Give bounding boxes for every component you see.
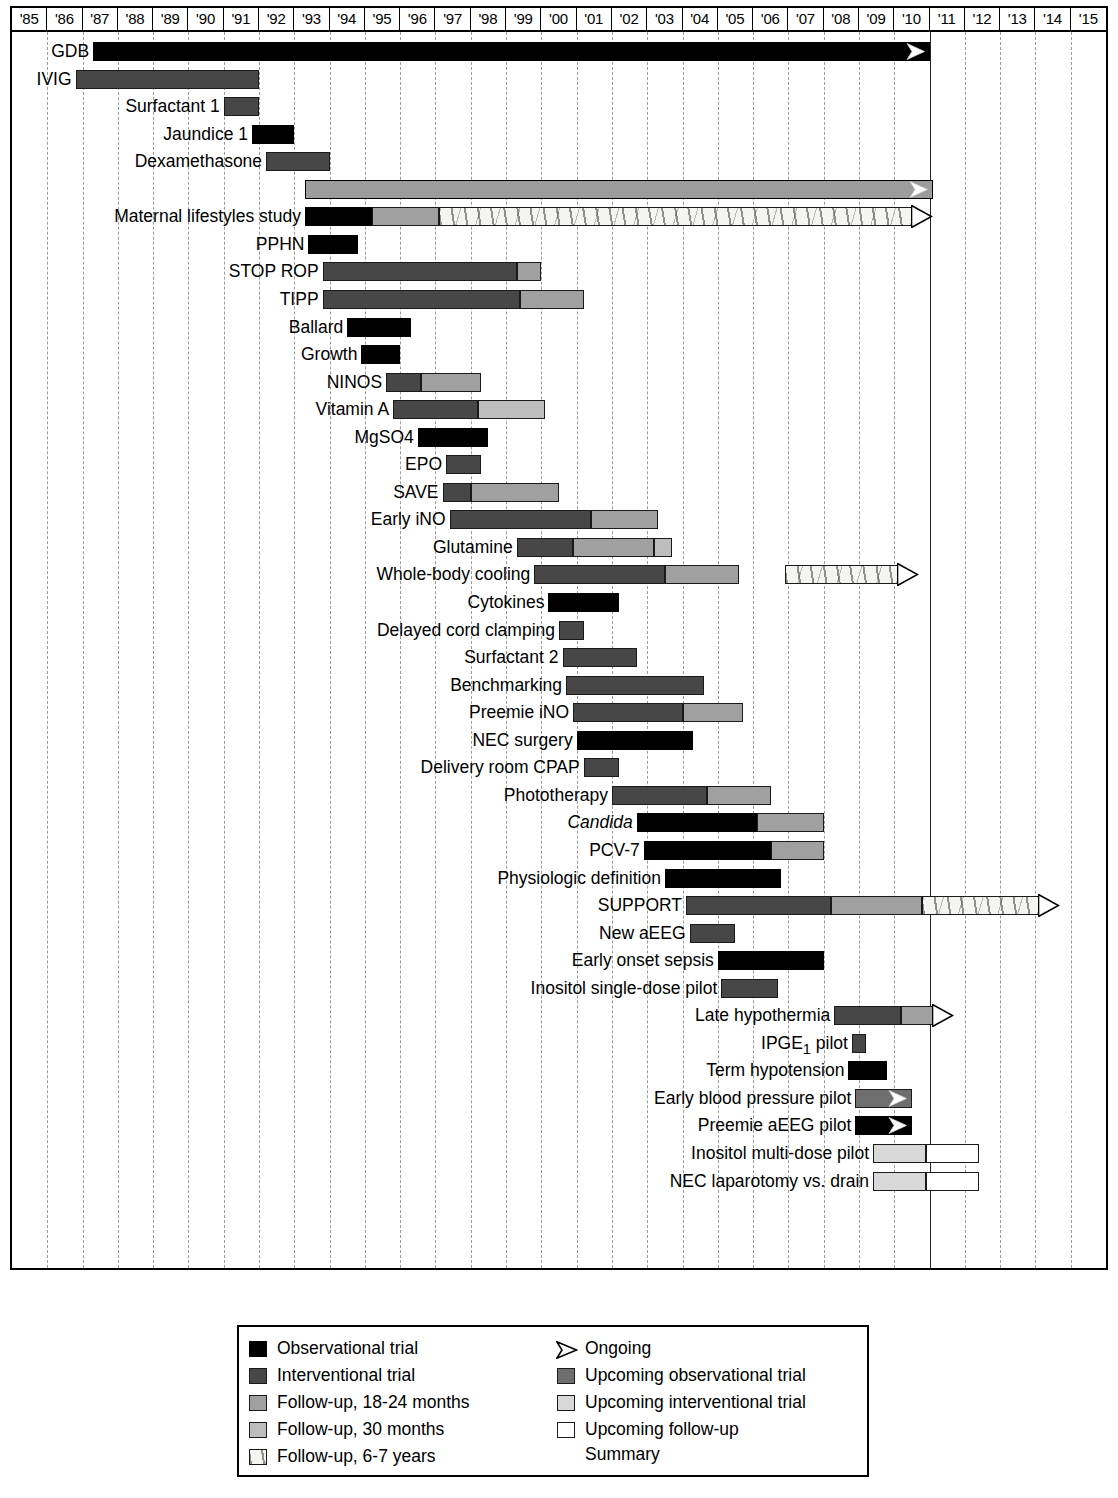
axis-year-98: '98 (471, 8, 506, 30)
row-label: Whole-body cooling (377, 561, 535, 587)
row-label: Ballard (289, 314, 347, 340)
bar-segment-int (450, 510, 591, 529)
gantt-row: PPHN (12, 231, 1106, 257)
gantt-row: Dexamethasone (12, 148, 1106, 174)
row-label: GDB (51, 38, 93, 64)
bar-segment-fu18 (831, 896, 923, 915)
bar-segment-fu18 (707, 786, 771, 805)
row-label: Surfactant 2 (464, 644, 562, 670)
row-label: Delayed cord clamping (377, 617, 559, 643)
bar-segment-obs (308, 235, 357, 254)
legend-label: Ongoing (585, 1335, 651, 1362)
row-label: TIPP (280, 286, 323, 312)
bar-segment-fu67 (785, 565, 898, 584)
row-label: IVIG (37, 66, 76, 92)
bar-segment-int (517, 538, 573, 557)
gantt-row: Vitamin A (12, 396, 1106, 422)
gantt-row: NEC laparotomy vs. drain (12, 1168, 1106, 1194)
bar-segment-fu18 (372, 207, 439, 226)
bar-segment-sum (305, 180, 933, 199)
bar-segment-fu18 (683, 703, 743, 722)
bar-segment-int (76, 70, 260, 89)
row-label: NEC laparotomy vs. drain (670, 1168, 873, 1194)
gantt-row: IPGE1 pilot (12, 1030, 1106, 1056)
bar-segment-fu18 (665, 565, 739, 584)
bar-segment-fu18 (573, 538, 654, 557)
row-label: NEC surgery (472, 727, 576, 753)
row-label: MgSO4 (355, 424, 418, 450)
bar-segment-int (446, 455, 481, 474)
axis-year-06: '06 (753, 8, 788, 30)
gantt-row: Ballard (12, 314, 1106, 340)
axis-year-09: '09 (859, 8, 894, 30)
gantt-row: NINOS (12, 369, 1106, 395)
row-label: Surfactant 1 (125, 93, 223, 119)
row-label: PCV-7 (589, 837, 644, 863)
legend-swatch-fu30 (249, 1422, 267, 1438)
axis-year-95: '95 (365, 8, 400, 30)
legend-column-left: Observational trialInterventional trialF… (249, 1335, 549, 1470)
legend-item-int: Interventional trial (249, 1362, 549, 1389)
legend-item-upobs: Upcoming observational trial (557, 1362, 863, 1389)
legend-label: Upcoming follow-up (585, 1416, 739, 1443)
bar-segment-obs (577, 731, 693, 750)
legend-label: Follow-up, 18-24 months (277, 1389, 470, 1416)
gantt-row: STOP ROP (12, 258, 1106, 284)
row-label: NINOS (327, 369, 386, 395)
gantt-row: Delivery room CPAP (12, 754, 1106, 780)
axis-year-00: '00 (541, 8, 576, 30)
axis-year-86: '86 (47, 8, 82, 30)
row-label: Early blood pressure pilot (654, 1085, 855, 1111)
bar-segment-obs (637, 813, 757, 832)
bar-segment-obs (548, 593, 619, 612)
row-label: Early iNO (371, 506, 450, 532)
row-label: Benchmarking (450, 672, 566, 698)
bar-segment-obs (361, 345, 400, 364)
bar-segment-fu67 (439, 207, 912, 226)
axis-year-89: '89 (153, 8, 188, 30)
bar-segment-int (323, 290, 521, 309)
bar-segment-int (393, 400, 478, 419)
bar-segment-int (563, 648, 637, 667)
bar-segment-upfu (926, 1144, 979, 1163)
ongoing-arrow-icon (1038, 894, 1060, 917)
legend-column-right: OngoingUpcoming observational trialUpcom… (557, 1335, 863, 1467)
gantt-row: Term hypotension (12, 1057, 1106, 1083)
axis-year-01: '01 (577, 8, 612, 30)
gantt-row: Cytokines (12, 589, 1106, 615)
row-label: Preemie aEEG pilot (698, 1112, 856, 1138)
axis-year-97: '97 (435, 8, 470, 30)
row-label: Late hypothermia (695, 1002, 834, 1028)
axis-year-13: '13 (1000, 8, 1035, 30)
bar-segment-fu18 (771, 841, 824, 860)
bar-segment-obs (93, 42, 929, 61)
bar-segment-fu18 (421, 373, 481, 392)
bar-segment-int (721, 979, 777, 998)
gantt-row: Early blood pressure pilot (12, 1085, 1106, 1111)
axis-year-11: '11 (930, 8, 965, 30)
row-label: Early onset sepsis (572, 947, 718, 973)
axis-year-94: '94 (330, 8, 365, 30)
gantt-row: Early onset sepsis (12, 947, 1106, 973)
axis-year-96: '96 (400, 8, 435, 30)
gantt-row: Growth (12, 341, 1106, 367)
bar-segment-int (566, 676, 704, 695)
legend-label: Follow-up, 6-7 years (277, 1443, 436, 1470)
row-label: IPGE1 pilot (761, 1030, 852, 1056)
row-label: SAVE (393, 479, 442, 505)
gantt-row: Candida (12, 809, 1106, 835)
bar-segment-int (690, 924, 736, 943)
axis-year-88: '88 (118, 8, 153, 30)
axis-year-14: '14 (1035, 8, 1070, 30)
row-label: New aEEG (599, 920, 690, 946)
row-label: Delivery room CPAP (421, 754, 584, 780)
gantt-row: MgSO4 (12, 424, 1106, 450)
bar-segment-int (834, 1006, 901, 1025)
bar-segment-fu18 (901, 1006, 933, 1025)
row-label: Inositol single-dose pilot (531, 975, 722, 1001)
bar-segment-upint (873, 1172, 926, 1191)
gantt-row: Late hypothermia (12, 1002, 1106, 1028)
legend-label: Follow-up, 30 months (277, 1416, 444, 1443)
legend-item-fu18: Follow-up, 18-24 months (249, 1389, 549, 1416)
bar-segment-int (584, 758, 619, 777)
